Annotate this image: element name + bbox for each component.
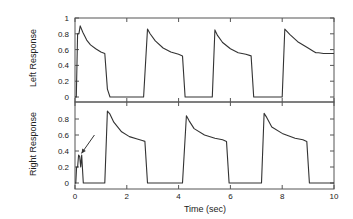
y-tick-label: 0.6 [58, 46, 70, 55]
y-tick-label: 0.4 [58, 147, 70, 156]
y-tick-label: 0.8 [58, 30, 70, 39]
right-response-axis-label: Right Response [28, 112, 38, 176]
top-plot-frame [75, 18, 334, 102]
left-response-panel: 00.20.40.60.81 [58, 14, 334, 102]
right-response-panel: 00.20.40.60.80246810 [58, 102, 339, 201]
y-tick-label: 0.2 [58, 163, 70, 172]
series-line [75, 26, 334, 97]
dual-response-chart: 00.20.40.60.81 00.20.40.60.80246810 Left… [0, 0, 353, 219]
bottom-plot-frame [75, 102, 334, 189]
chart-canvas: 00.20.40.60.81 00.20.40.60.80246810 Left… [0, 0, 353, 219]
x-tick-label: 4 [176, 192, 181, 201]
y-tick-label: 0.4 [58, 61, 70, 70]
arrowhead-icon [82, 149, 86, 154]
time-axis-label: Time (sec) [184, 204, 226, 214]
series-line [75, 111, 334, 183]
x-tick-label: 2 [125, 192, 130, 201]
left-response-axis-label: Left Response [28, 29, 38, 87]
y-tick-label: 0 [65, 93, 70, 102]
y-tick-label: 1 [65, 14, 70, 23]
x-tick-label: 10 [330, 192, 339, 201]
y-tick-label: 0 [65, 179, 70, 188]
y-tick-label: 0.6 [58, 131, 70, 140]
y-tick-label: 0.8 [58, 115, 70, 124]
y-tick-label: 0.2 [58, 77, 70, 86]
x-tick-label: 0 [73, 192, 78, 201]
x-tick-label: 8 [280, 192, 285, 201]
x-tick-label: 6 [228, 192, 233, 201]
